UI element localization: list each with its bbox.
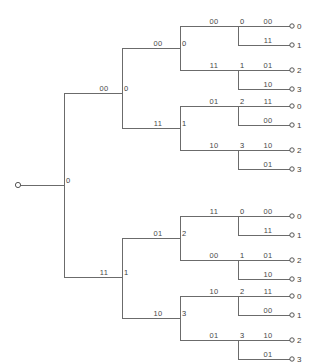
leaf-branch-label-13: 00 [263,306,272,315]
root-state-label: 0 [66,176,70,185]
leaf-index-label-14: 2 [297,336,302,345]
leaf-node-1[interactable] [290,43,294,47]
level1-branch-label-1: 11 [100,268,109,277]
leaf-branch-label-10: 01 [263,251,272,260]
leaf-branch-label-5: 00 [263,116,272,125]
level3-branch-label-4: 11 [210,207,219,216]
level3-branch-label-7: 01 [209,331,218,340]
level3-branch-label-5: 00 [209,251,218,260]
leaf-node-2[interactable] [290,68,294,72]
leaf-node-3[interactable] [290,87,294,91]
leaf-node-12[interactable] [290,294,294,298]
leaf-index-label-10: 2 [297,256,302,265]
leaf-index-label-0: 0 [297,22,302,31]
leaf-index-label-6: 2 [297,146,302,155]
leaf-node-8[interactable] [290,214,294,218]
level2-branch-label-2: 01 [153,229,162,238]
leaf-node-10[interactable] [290,258,294,262]
level3-state-label-7: 3 [240,331,244,340]
level3-state-label-0: 0 [240,17,244,26]
tree-diagram-canvas: 0 000111 000111012103 000111012103110001… [0,0,313,364]
leaf-branch-label-4: 11 [264,97,273,106]
level3-state-label-5: 1 [240,251,244,260]
leaf-node-7[interactable] [290,167,294,171]
leaf-branch-label-1: 11 [264,36,273,45]
level1-branch-label-0: 00 [99,84,108,93]
leaf-index-label-4: 0 [297,102,302,111]
level2-state-label-2: 2 [182,229,186,238]
leaf-index-label-8: 0 [297,212,302,221]
level2-branch-label-3: 10 [153,309,162,318]
leaf-branch-label-12: 11 [264,287,273,296]
level3-branch-label-2: 01 [209,97,218,106]
leaf-node-13[interactable] [290,313,294,317]
root-terminal-node[interactable] [15,182,20,187]
leaf-branch-label-7: 01 [263,160,272,169]
level3-state-label-1: 1 [240,61,244,70]
leaf-index-label-13: 1 [297,311,302,320]
leaf-node-5[interactable] [290,123,294,127]
leaf-branch-label-9: 11 [264,226,273,235]
leaf-branch-label-8: 00 [263,207,272,216]
leaf-index-label-2: 2 [297,66,302,75]
level3-branch-label-3: 10 [209,141,218,150]
leaf-index-label-15: 3 [297,355,302,364]
leaf-node-14[interactable] [290,338,294,342]
leaf-index-label-12: 0 [297,292,302,301]
level2-branch-label-1: 11 [154,119,163,128]
level3-state-label-4: 0 [240,207,244,216]
leaf-node-0[interactable] [290,24,294,28]
leaf-index-label-11: 3 [297,275,302,284]
level2-state-label-1: 1 [182,119,186,128]
leaf-branch-label-11: 10 [263,270,272,279]
leaf-branch-label-3: 10 [263,80,272,89]
level2-state-label-0: 0 [182,39,186,48]
leaf-node-15[interactable] [290,357,294,361]
level3-branch-label-1: 11 [210,61,219,70]
leaf-index-label-1: 1 [297,41,302,50]
level3-state-label-6: 2 [240,287,244,296]
leaf-node-9[interactable] [290,233,294,237]
leaf-branch-label-6: 10 [263,141,272,150]
level1-state-label-0: 0 [124,84,128,93]
leaf-index-label-7: 3 [297,165,302,174]
leaf-index-label-5: 1 [297,121,302,130]
leaf-branch-label-15: 01 [263,350,272,359]
leaf-branch-label-0: 00 [263,17,272,26]
level2-state-label-3: 3 [182,309,186,318]
leaf-index-label-9: 1 [297,231,302,240]
level3-state-label-3: 3 [240,141,244,150]
leaf-index-label-3: 3 [297,85,302,94]
level3-branch-label-0: 00 [209,17,218,26]
leaf-branch-label-2: 01 [263,61,272,70]
leaf-branch-label-14: 10 [263,331,272,340]
level3-state-label-2: 2 [240,97,244,106]
level3-branch-label-6: 10 [209,287,218,296]
level1-state-label-1: 1 [124,268,128,277]
leaf-node-6[interactable] [290,148,294,152]
leaf-node-4[interactable] [290,104,294,108]
leaf-node-11[interactable] [290,277,294,281]
level2-branch-label-0: 00 [153,39,162,48]
